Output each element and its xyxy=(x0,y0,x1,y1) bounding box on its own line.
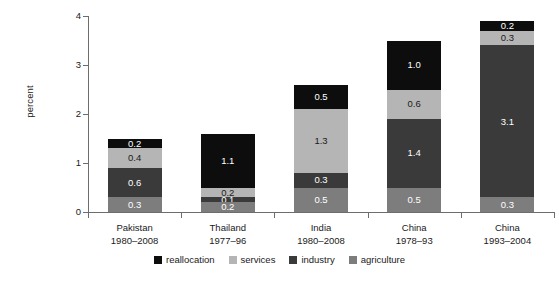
legend-swatch-icon xyxy=(229,256,237,264)
x-axis-label-4: China1993–2004 xyxy=(447,221,559,247)
bar-china-4[interactable]: 0.20.33.10.3 xyxy=(480,21,534,212)
bar-segment-value: 0.2 xyxy=(221,188,234,198)
x-axis-tick xyxy=(461,212,462,218)
legend-swatch-icon xyxy=(154,256,162,264)
bar-segment-value: 3.1 xyxy=(501,117,514,127)
bar-segment-value: 0.3 xyxy=(501,33,514,43)
bar-segment-value: 0.3 xyxy=(314,175,327,185)
chart-legend: reallocationservicesindustryagriculture xyxy=(0,255,559,265)
category-name: India xyxy=(311,222,332,233)
y-axis-tick-label: 1 xyxy=(55,158,81,168)
bar-segment-value: 0.2 xyxy=(221,202,234,212)
y-axis-tick-label-text: 4 xyxy=(59,11,81,21)
legend-swatch-icon xyxy=(289,256,297,264)
bar-segment-services[interactable]: 0.3 xyxy=(480,31,534,46)
bar-segment-value: 0.3 xyxy=(501,200,514,210)
legend-label: agriculture xyxy=(361,255,405,265)
y-axis-tick-label: 4 xyxy=(55,11,81,21)
bar-segment-agriculture[interactable]: 0.3 xyxy=(108,197,162,212)
bar-segment-services[interactable]: 0.2 xyxy=(201,188,255,198)
legend-label: industry xyxy=(301,255,334,265)
plot-area: 0.20.40.60.31.10.20.10.20.51.30.30.51.00… xyxy=(88,16,554,212)
legend-item-reallocation[interactable]: reallocation xyxy=(154,255,215,265)
bar-thailand-1[interactable]: 1.10.20.10.2 xyxy=(201,134,255,212)
x-axis-tick xyxy=(88,212,89,218)
y-axis-tick-label: 3 xyxy=(55,60,81,70)
bar-segment-reallocation[interactable]: 1.0 xyxy=(387,41,441,90)
bar-segment-industry[interactable]: 0.3 xyxy=(294,173,348,188)
bar-segment-value: 0.6 xyxy=(128,178,141,188)
bar-segment-services[interactable]: 0.4 xyxy=(108,148,162,168)
category-period: 1993–2004 xyxy=(447,234,559,247)
bar-segment-industry[interactable]: 0.6 xyxy=(108,168,162,197)
bar-segment-industry[interactable]: 3.1 xyxy=(480,45,534,197)
x-axis-tick xyxy=(554,212,555,218)
y-axis-tick-label-text: 0 xyxy=(59,207,81,217)
bar-pakistan-0[interactable]: 0.20.40.60.3 xyxy=(108,139,162,212)
bar-segment-reallocation[interactable]: 0.5 xyxy=(294,85,348,110)
bar-segment-value: 1.3 xyxy=(314,136,327,146)
bar-segment-agriculture[interactable]: 0.3 xyxy=(480,197,534,212)
legend-item-services[interactable]: services xyxy=(229,255,276,265)
bar-segment-agriculture[interactable]: 0.5 xyxy=(294,188,348,213)
bar-segment-value: 0.5 xyxy=(314,92,327,102)
legend-item-agriculture[interactable]: agriculture xyxy=(349,255,405,265)
x-axis-tick xyxy=(181,212,182,218)
category-name: Pakistan xyxy=(116,222,152,233)
x-axis-tick xyxy=(274,212,275,218)
bar-segment-value: 1.0 xyxy=(408,60,421,70)
x-axis-tick xyxy=(368,212,369,218)
bar-india-2[interactable]: 0.51.30.30.5 xyxy=(294,85,348,212)
legend-label: reallocation xyxy=(166,255,215,265)
bar-china-3[interactable]: 1.00.61.40.5 xyxy=(387,41,441,212)
y-axis-tick-label: 0 xyxy=(55,207,81,217)
y-axis-tick-label-text: 1 xyxy=(59,158,81,168)
bar-segment-agriculture[interactable]: 0.5 xyxy=(387,188,441,213)
y-axis-tick-label-text: 2 xyxy=(59,109,81,119)
stacked-bar-chart: percent 01234 0.20.40.60.31.10.20.10.20.… xyxy=(0,0,559,281)
bar-segment-value: 1.1 xyxy=(221,156,234,166)
bar-segment-value: 0.5 xyxy=(408,195,421,205)
bar-segment-value: 0.2 xyxy=(501,21,514,31)
y-axis-title: percent xyxy=(24,52,35,152)
legend-label: services xyxy=(241,255,276,265)
bar-segment-value: 0.6 xyxy=(408,99,421,109)
bar-segment-agriculture[interactable]: 0.2 xyxy=(201,202,255,212)
legend-item-industry[interactable]: industry xyxy=(289,255,334,265)
category-name: Thailand xyxy=(210,222,246,233)
y-axis-tick-label-text: 3 xyxy=(59,60,81,70)
bar-segment-services[interactable]: 0.6 xyxy=(387,90,441,119)
y-axis-tick-label: 2 xyxy=(55,109,81,119)
bar-segment-value: 0.5 xyxy=(314,195,327,205)
bar-segment-reallocation[interactable]: 0.2 xyxy=(480,21,534,31)
bar-segment-value: 1.4 xyxy=(408,148,421,158)
bar-segment-reallocation[interactable]: 1.1 xyxy=(201,134,255,188)
bar-segment-services[interactable]: 1.3 xyxy=(294,109,348,173)
x-axis-line xyxy=(88,212,554,213)
bar-segment-reallocation[interactable]: 0.2 xyxy=(108,139,162,149)
category-name: China xyxy=(495,222,520,233)
bar-segment-value: 0.2 xyxy=(128,139,141,149)
bar-segment-value: 0.3 xyxy=(128,200,141,210)
category-name: China xyxy=(402,222,427,233)
bar-segment-industry[interactable]: 1.4 xyxy=(387,119,441,188)
legend-swatch-icon xyxy=(349,256,357,264)
bar-segment-value: 0.4 xyxy=(128,153,141,163)
